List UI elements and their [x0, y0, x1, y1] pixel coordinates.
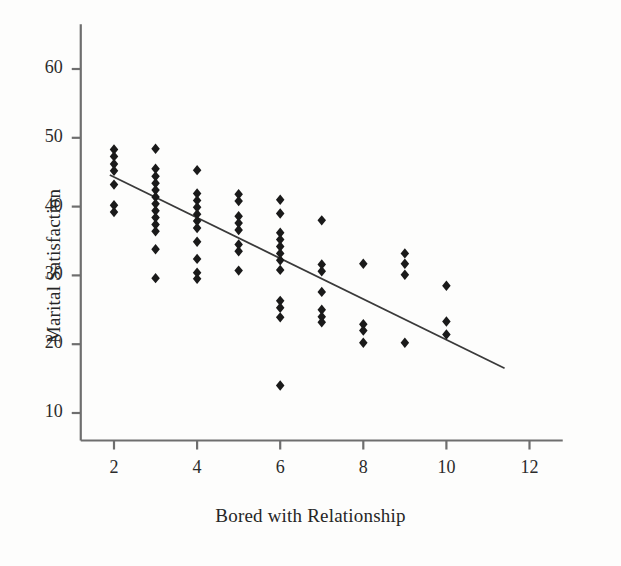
data-point — [234, 246, 243, 256]
x-tick-label: 8 — [343, 457, 383, 478]
x-tick-label: 10 — [426, 457, 466, 478]
data-point — [193, 254, 202, 264]
data-point — [317, 266, 326, 276]
data-point — [276, 208, 285, 218]
x-axis-title: Bored with Relationship — [0, 505, 621, 527]
data-point — [110, 207, 119, 217]
x-tick-label: 2 — [94, 457, 134, 478]
data-point — [110, 179, 119, 189]
plot-canvas — [0, 0, 621, 566]
regression-line — [110, 175, 505, 368]
data-points — [110, 144, 451, 391]
data-point — [317, 215, 326, 225]
data-point — [151, 244, 160, 254]
data-point — [401, 338, 410, 348]
data-point — [276, 265, 285, 275]
data-point — [193, 165, 202, 175]
data-point — [359, 259, 368, 269]
y-axis-title: Marital Satisfaction — [43, 116, 65, 416]
x-tick-label: 6 — [260, 457, 300, 478]
data-point — [359, 325, 368, 335]
data-point — [442, 281, 451, 291]
data-point — [276, 303, 285, 313]
fit-line-segment — [110, 175, 505, 368]
x-tick-label: 4 — [177, 457, 217, 478]
y-tick-label: 60 — [17, 57, 63, 78]
data-point — [317, 287, 326, 297]
data-point — [151, 144, 160, 154]
data-point — [234, 265, 243, 275]
data-point — [401, 248, 410, 258]
data-point — [442, 316, 451, 326]
data-point — [401, 270, 410, 280]
data-point — [276, 312, 285, 322]
data-point — [359, 338, 368, 348]
data-point — [234, 196, 243, 206]
data-point — [193, 223, 202, 233]
data-point — [151, 273, 160, 283]
data-point — [151, 226, 160, 236]
scatter-plot-figure: 102030405060 24681012 Marital Satisfacti… — [0, 0, 621, 566]
data-point — [401, 259, 410, 269]
data-point — [193, 274, 202, 284]
data-point — [276, 380, 285, 390]
data-point — [193, 236, 202, 246]
data-point — [110, 166, 119, 176]
data-point — [276, 195, 285, 205]
tick-marks — [72, 69, 530, 450]
x-tick-label: 12 — [510, 457, 550, 478]
data-point — [317, 317, 326, 327]
data-point — [234, 225, 243, 235]
